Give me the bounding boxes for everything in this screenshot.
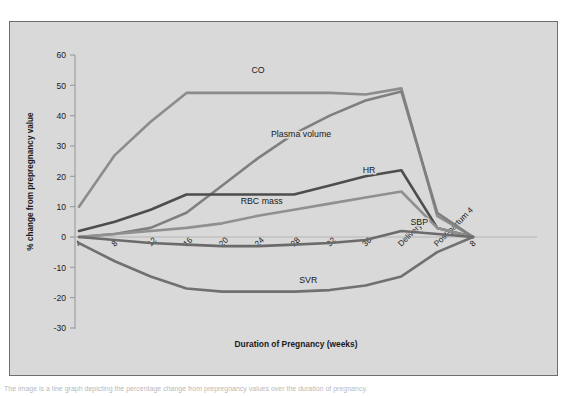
figure-caption: The image is a line graph depicting the …	[4, 384, 564, 393]
series-label-rbc-mass: RBC mass	[241, 196, 284, 206]
x-axis-title: Duration of Pregnancy (weeks)	[235, 339, 358, 349]
y-tick-label: 0	[61, 232, 66, 242]
y-tick-label: -10	[54, 263, 67, 273]
y-tick-label: 40	[56, 111, 66, 121]
y-tick-label: 60	[56, 50, 66, 60]
axis-titles: % change from prepregnancy valueDuration…	[26, 112, 358, 349]
series-label-plasma-volume: Plasma volume	[271, 129, 331, 139]
figure-page: 6050403020100-10-20-304812162024283236De…	[0, 0, 568, 396]
series-label-hr: HR	[363, 165, 376, 175]
line-chart: 6050403020100-10-20-304812162024283236De…	[10, 22, 557, 375]
x-tick-label: 8	[468, 239, 478, 249]
series-label-sbp: SBP	[410, 217, 428, 227]
chart-figure-frame: 6050403020100-10-20-304812162024283236De…	[9, 21, 558, 376]
series-labels: COCOPlasma volumePlasma volumeHRHRRBC ma…	[241, 65, 429, 284]
y-tick-label: 50	[56, 81, 66, 91]
y-tick-label: -30	[54, 323, 67, 333]
y-tick-label: 30	[56, 141, 66, 151]
y-axis-title: % change from prepregnancy value	[26, 112, 35, 251]
series-label-co: CO	[251, 65, 264, 75]
series-label-svr: SVR	[299, 275, 317, 285]
y-tick-label: 10	[56, 202, 66, 212]
series-group	[79, 88, 473, 291]
y-tick-label: 20	[56, 172, 66, 182]
y-tick-label: -20	[54, 293, 67, 303]
